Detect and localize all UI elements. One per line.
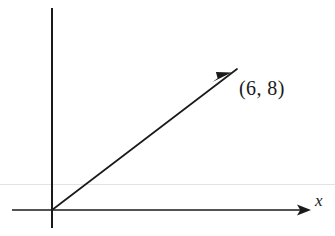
coordinate-plot-canvas	[0, 0, 335, 236]
vector-shaft	[52, 69, 237, 210]
vector-diagram-figure: (6, 8) x	[0, 0, 335, 236]
